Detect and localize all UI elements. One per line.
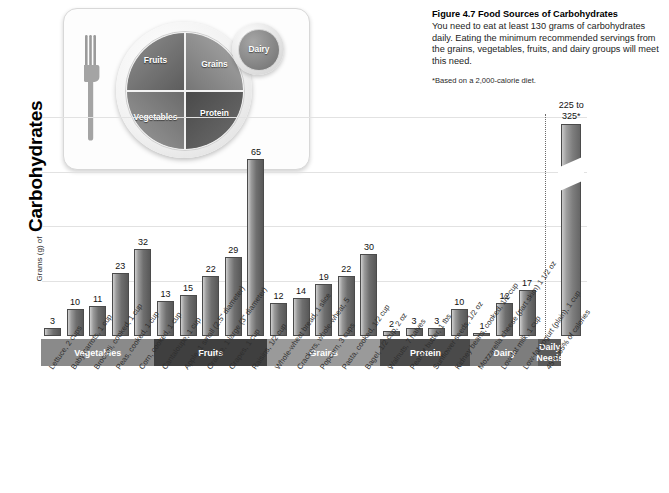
bar-value-label: 3 [50,316,55,326]
figure-number: Figure 4.7 [432,9,475,19]
chart-bar: 3 [44,328,61,336]
daily-needs-value-label: 225 to 325* [553,100,589,122]
bar-value-label: 22 [341,264,351,274]
bar-value-label: 15 [183,283,193,293]
bar-value-label: 11 [93,294,102,304]
bar-value-label: 65 [251,147,261,157]
caption-title: Figure 4.7 Food Sources of Carbohydrates [432,8,664,20]
plate-label-dairy: Dairy [239,44,279,54]
plate-section-fruits: Fruits [126,32,185,91]
dairy-cup: Dairy [238,29,280,71]
bar-value-label: 14 [296,286,306,296]
bar-value-label: 13 [160,289,170,299]
caption-footnote: *Based on a 2,000-calorie diet. [432,76,664,86]
bar-value-label: 23 [115,261,125,271]
plate-label-fruits: Fruits [127,55,184,65]
bar-value-label: 32 [138,237,148,247]
bar-value-label: 10 [70,297,80,307]
bar-value-label: 10 [454,297,464,307]
x-axis-tick-labels: Lettuce, 2 cupsBaby carrots, 1 cupBrocco… [0,366,669,493]
bar-value-label: 12 [273,291,283,301]
bar-value-label: 19 [319,272,329,282]
bar-value-label: 30 [364,242,374,252]
bar-value-label: 29 [228,245,238,255]
figure-caption: Figure 4.7 Food Sources of Carbohydrates… [432,8,664,86]
caption-title-text: Food Sources of Carbohydrates [478,9,618,19]
caption-body: You need to eat at least 130 grams of ca… [432,21,664,67]
daily-needs-separator [545,114,546,338]
gridline [42,117,587,118]
dairy-cup-outer: Dairy [232,23,284,75]
bar-value-label: 22 [206,264,216,274]
gridline [42,226,587,227]
gridline [42,172,587,173]
